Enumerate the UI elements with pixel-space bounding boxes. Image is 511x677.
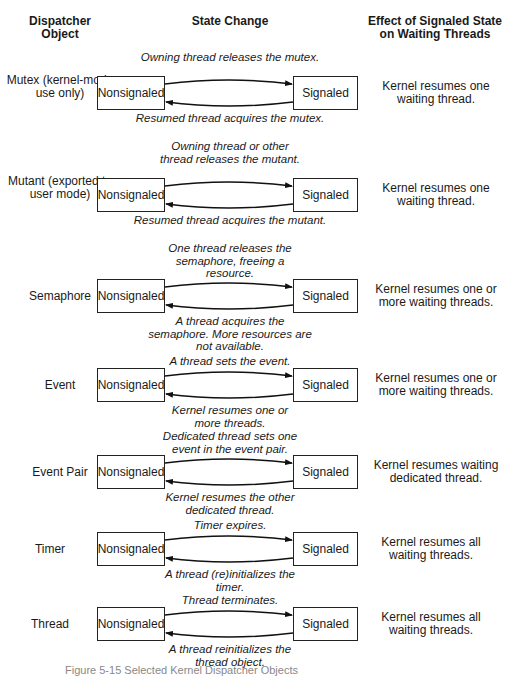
object-name: Thread (0, 618, 105, 631)
signaled-state: Signaled (293, 455, 358, 489)
nonsignaled-state: Nonsignaled (97, 76, 165, 110)
effect-text: Kernel resumes one or more waiting threa… (370, 283, 502, 309)
effect-text: Kernel resumes one waiting thread. (370, 182, 502, 208)
signaled-state: Signaled (293, 368, 358, 402)
signaled-state: Signaled (293, 607, 358, 641)
nonsignaled-state: Nonsignaled (97, 178, 165, 212)
effect-text: Kernel resumes one waiting thread. (370, 80, 502, 106)
to-nonsignaled-label: A thread acquires the semaphore. More re… (145, 315, 315, 353)
to-signaled-label: Thread terminates. (130, 594, 330, 607)
to-nonsignaled-label: A thread (re)initializes the timer. (165, 568, 295, 593)
to-signaled-label: Owning thread or other thread releases t… (155, 140, 305, 165)
effect-text: Kernel resumes one or more waiting threa… (370, 372, 502, 398)
to-signaled-label: Owning thread releases the mutex. (130, 51, 330, 64)
nonsignaled-state: Nonsignaled (97, 532, 165, 566)
signaled-state: Signaled (293, 532, 358, 566)
to-nonsignaled-label: Resumed thread acquires the mutant. (130, 214, 330, 227)
to-nonsignaled-label: Resumed thread acquires the mutex. (130, 112, 330, 125)
effect-text: Kernel resumes all waiting threads. (375, 611, 487, 637)
nonsignaled-state: Nonsignaled (97, 368, 165, 402)
to-nonsignaled-label: Kernel resumes one or more threads. (170, 404, 290, 429)
signaled-state: Signaled (293, 178, 358, 212)
to-nonsignaled-label: Kernel resumes the other dedicated threa… (160, 491, 300, 516)
nonsignaled-state: Nonsignaled (97, 279, 165, 313)
signaled-state: Signaled (293, 279, 358, 313)
signaled-state: Signaled (293, 76, 358, 110)
nonsignaled-state: Nonsignaled (97, 607, 165, 641)
to-signaled-label: Dedicated thread sets one event in the e… (160, 430, 300, 455)
to-signaled-label: One thread releases the semaphore, freei… (160, 242, 300, 280)
nonsignaled-state: Nonsignaled (97, 455, 165, 489)
object-name: Timer (0, 543, 105, 556)
effect-text: Kernel resumes waiting dedicated thread. (370, 459, 502, 485)
effect-text: Kernel resumes all waiting threads. (375, 536, 487, 562)
to-signaled-label: A thread sets the event. (130, 355, 330, 368)
to-signaled-label: Timer expires. (130, 519, 330, 532)
figure-caption: Figure 5-15 Selected Kernel Dispatcher O… (65, 664, 298, 676)
